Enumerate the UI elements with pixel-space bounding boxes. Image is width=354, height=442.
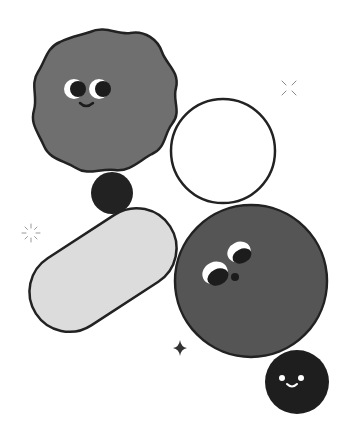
- burst-icon-left: [22, 224, 40, 242]
- dark-ball: [91, 172, 133, 214]
- white-circle: [171, 99, 275, 203]
- small-face-character: [265, 350, 329, 414]
- pill-capsule: [14, 193, 192, 347]
- big-circle-character: [175, 205, 327, 357]
- wavy-blob-character: [33, 29, 177, 171]
- big-nose: [231, 273, 239, 281]
- illustration-svg: [0, 0, 354, 442]
- illustration-canvas: [0, 0, 354, 442]
- sparkle-icon: [173, 340, 187, 356]
- burst-icon-right: [282, 81, 296, 95]
